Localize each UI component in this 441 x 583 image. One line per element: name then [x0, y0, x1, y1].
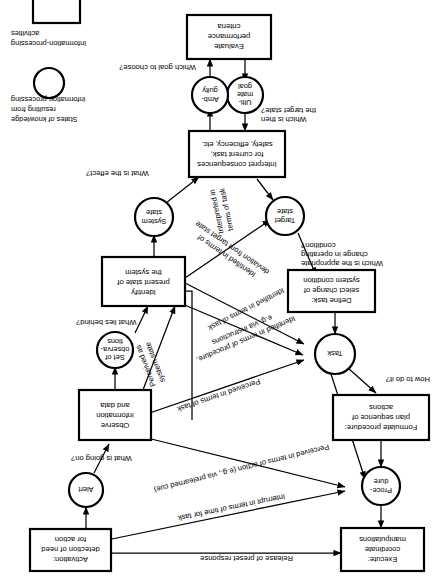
edge-interpret-to-target-state	[257, 179, 273, 200]
node-ambiguity-line-1: Amb-	[201, 95, 219, 104]
decision-ladder-svg: Execute: coordinate manipulations Proce-…	[0, 0, 441, 583]
edge-label-what-is-the-effect: What is the effect?	[86, 169, 149, 178]
node-execute-line-1: Execute:	[368, 555, 398, 564]
edge-system-state-to-interpret	[166, 177, 199, 203]
edge-label-which-is-then-1: Which is then	[261, 115, 307, 124]
node-observe-line-1: Observe	[101, 421, 130, 430]
edge-label-perceived-in-terms-of-action: Perceived in terms of action (e.g., via …	[153, 442, 331, 494]
edge-observations-to-identify	[135, 306, 148, 333]
node-system-state-line-2: state	[146, 208, 162, 217]
edge-label-interrupt-in-terms-of-time: Interrupt in terms of time for task	[177, 492, 286, 523]
node-interpret-line-2: for current task,	[211, 150, 264, 159]
node-formulate-procedure[interactable]: Formulate procedure: plan sequence of ac…	[333, 395, 429, 440]
node-identify-line-2: present state of	[116, 278, 169, 287]
node-activation-line-1: Activation:	[53, 555, 88, 564]
legend-information-processing: Information-processing activities	[11, 0, 86, 48]
node-task[interactable]: Task	[315, 334, 355, 374]
node-interpret-consequences[interactable]: Interpret consequences for current task,…	[189, 131, 285, 177]
node-activation-line-3: for action	[55, 535, 86, 544]
node-execute-line-2: coordinate	[365, 545, 400, 554]
legend-processing-line-1: Information-processing	[11, 39, 86, 48]
node-identify-present-state[interactable]: Identify present state of the system	[102, 257, 185, 306]
node-procedure-line-1: Proce-	[370, 486, 392, 495]
legend-processing-line-2: activities	[11, 29, 40, 38]
node-activation[interactable]: Activation: detection of need for action	[30, 529, 111, 571]
legend-knowledge-line-1: States of knowledge	[11, 115, 78, 124]
edge-label-release-preset-response: Release of preset response	[200, 554, 293, 563]
edge-label-what-lies-behind: What lies behind?	[76, 318, 136, 327]
node-procedure-line-2: dure	[374, 477, 389, 486]
edge-label-what-is-going-on: What is going on?	[71, 454, 132, 463]
node-evaluate-line-1: Evaluate	[214, 42, 244, 51]
node-procedure[interactable]: Proce- dure	[362, 467, 400, 505]
legend-states-of-knowledge: States of knowledge resulting from infor…	[11, 68, 85, 124]
edge-label-which-change-2: change in operating	[301, 250, 368, 259]
node-formulate-line-1: Formulate procedure:	[345, 423, 418, 432]
node-define-task-line-3: system condition	[303, 276, 360, 285]
node-observe-line-2: information	[96, 411, 134, 420]
node-execute[interactable]: Execute: coordinate manipulations	[341, 528, 424, 571]
node-observations-line-3: tions	[107, 337, 123, 346]
node-system-state[interactable]: System state	[135, 198, 173, 236]
node-define-task[interactable]: Define task: select change of system con…	[288, 270, 375, 312]
node-alert-label: Alert	[78, 485, 93, 494]
node-ultimate-goal-line-2: mate	[237, 90, 253, 99]
node-activation-line-2: detection of need	[41, 545, 99, 554]
edge-label-identified-procedure-1: Identified in terms of procedure,	[195, 314, 297, 364]
edge-label-perceived-in-terms-of-task: Perceived in terms of task	[176, 377, 262, 414]
node-observations-line-1: Set of	[104, 353, 124, 362]
node-ultimate-goal[interactable]: Ulti- mate goal	[227, 77, 263, 113]
legend-knowledge-line-2: resulting from	[11, 105, 56, 114]
node-formulate-line-3: actions	[369, 403, 393, 412]
node-ambiguity[interactable]: Amb- guity	[192, 77, 228, 113]
node-system-state-line-1: System	[142, 217, 167, 226]
edge-label-how-to-do-it: How to do it?	[386, 375, 430, 384]
node-define-task-line-1: Define task:	[311, 296, 351, 305]
legend-knowledge-line-3: information processing	[11, 95, 85, 104]
node-target-state-line-2: state	[277, 207, 293, 216]
node-define-task-line-2: select change of	[303, 286, 359, 295]
node-interpret-line-3: safety, efficiency, etc.	[201, 140, 272, 149]
diagram-canvas: Execute: coordinate manipulations Proce-…	[0, 0, 441, 583]
node-observe-information[interactable]: Observe information and data	[79, 390, 151, 440]
node-evaluate-line-2: performance	[208, 32, 251, 41]
node-interpret-line-1: Interpret consequences	[197, 160, 277, 169]
node-evaluate-line-3: criteria	[217, 22, 241, 31]
node-observations-line-2: observa-	[100, 345, 129, 354]
node-set-of-observations[interactable]: Set of observa- tions	[97, 332, 133, 368]
node-evaluate-performance-criteria[interactable]: Evaluate performance criteria	[187, 15, 271, 59]
node-observe-line-3: and data	[99, 401, 129, 410]
node-ultimate-goal-line-3: goal	[238, 82, 252, 91]
node-task-label: Task	[327, 349, 342, 358]
node-identify-line-1: Identify	[131, 288, 156, 297]
rotated-figure-container: Execute: coordinate manipulations Proce-…	[0, 0, 441, 583]
node-ambiguity-line-2: guity	[202, 86, 218, 95]
edge-activation-to-procedure	[107, 491, 345, 540]
edge-label-which-goal-to-choose: Which goal to choose?	[119, 63, 196, 72]
node-alert[interactable]: Alert	[69, 473, 103, 507]
edge-label-which-change-1: Which is the appropriate	[301, 259, 383, 268]
node-target-state-line-1: Target	[275, 216, 296, 225]
edge-label-which-is-then-2: the target state?	[261, 106, 316, 115]
edge-task-to-formulate	[348, 368, 376, 393]
node-execute-line-3: manipulations	[359, 535, 406, 544]
node-formulate-line-2: plan sequence of	[351, 413, 410, 422]
node-target-state[interactable]: Target state	[266, 197, 304, 235]
node-ultimate-goal-line-1: Ulti-	[238, 98, 252, 107]
edge-observe-to-procedure	[135, 435, 345, 487]
edge-label-which-change-3: condition?	[301, 241, 336, 250]
node-identify-line-3: the system	[125, 268, 162, 277]
